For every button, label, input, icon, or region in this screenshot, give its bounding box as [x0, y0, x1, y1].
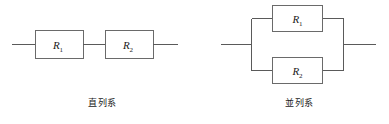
parallel-circuit-group: R1 R2 — [221, 6, 376, 84]
parallel-resistor-1-subscript: 1 — [299, 20, 303, 28]
parallel-resistor-2-subscript: 2 — [299, 72, 303, 80]
series-circuit-caption: 直列系 — [0, 96, 205, 109]
series-resistor-2-subscript: 2 — [130, 46, 134, 54]
series-circuit-group: R1 R2 — [12, 31, 178, 59]
circuit-figure: R1 R2 R1 — [0, 0, 389, 124]
series-resistor-1-subscript: 1 — [60, 46, 64, 54]
parallel-circuit-caption: 並列系 — [210, 96, 389, 109]
